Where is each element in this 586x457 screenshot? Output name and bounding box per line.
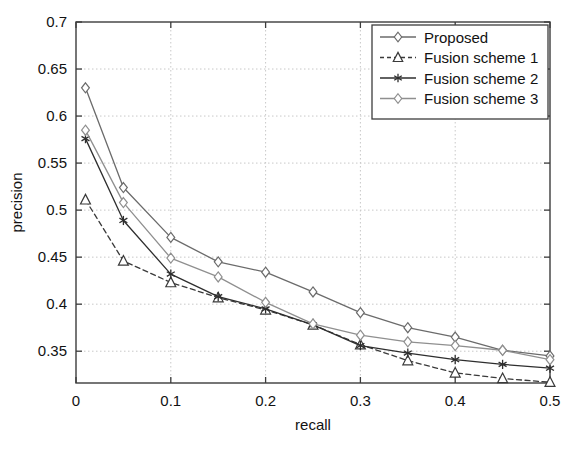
legend-label: Fusion scheme 1 <box>424 49 538 66</box>
precision-recall-chart: 0.350.40.450.50.550.60.650.700.10.20.30.… <box>0 0 586 457</box>
y-tick-label: 0.5 <box>46 201 67 218</box>
y-tick-label: 0.6 <box>46 107 67 124</box>
y-tick-label: 0.55 <box>38 154 67 171</box>
x-tick-label: 0.2 <box>255 392 276 409</box>
chart-legend: ProposedFusion scheme 1Fusion scheme 2Fu… <box>372 25 548 119</box>
x-tick-label: 0.3 <box>350 392 371 409</box>
x-tick-label: 0 <box>72 392 80 409</box>
y-axis-title: precision <box>8 172 25 232</box>
y-tick-label: 0.7 <box>46 13 67 30</box>
x-axis-title: recall <box>295 416 331 433</box>
x-tick-label: 0.4 <box>445 392 466 409</box>
x-tick-label: 0.1 <box>160 392 181 409</box>
y-tick-label: 0.35 <box>38 342 67 359</box>
x-tick-label: 0.5 <box>540 392 561 409</box>
y-tick-label: 0.65 <box>38 60 67 77</box>
legend-label: Proposed <box>424 29 488 46</box>
caption-text <box>2 435 93 452</box>
legend-label: Fusion scheme 2 <box>424 70 538 87</box>
y-tick-label: 0.45 <box>38 248 67 265</box>
figure-caption <box>0 435 586 457</box>
y-tick-label: 0.4 <box>46 295 67 312</box>
legend-label: Fusion scheme 3 <box>424 90 538 107</box>
